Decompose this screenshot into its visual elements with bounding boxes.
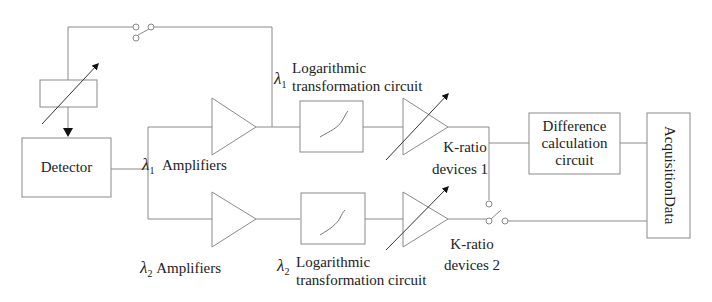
difference-line3: circuit: [555, 152, 593, 169]
lambda-subscript: 2: [284, 266, 289, 277]
data-acquisition-label: Data Acquisition: [651, 113, 687, 238]
k-ratio-1-line1: K-ratio: [433, 139, 497, 156]
lambda-subscript: 1: [281, 79, 286, 90]
lambda-subscript: 2: [147, 268, 152, 279]
data-acquisition-line1: Data: [661, 196, 678, 224]
detector-label: Detector: [22, 138, 111, 197]
amplifier-2-label: λ2 Amplifiers: [140, 259, 221, 282]
k-ratio-1-line2: devices 1: [428, 161, 492, 178]
amplifier-2-text: Amplifiers: [156, 260, 221, 276]
log-circuit-2-line1: Logarithmic: [296, 254, 370, 271]
log-circuit-1-line1: Logarithmic: [292, 60, 366, 77]
data-acquisition-line2: Acquisition: [661, 126, 678, 196]
amplifier-1-label: λ1 Amplifiers: [142, 156, 227, 179]
amplifier-1-triangle: [212, 98, 256, 155]
difference-line1: Difference: [543, 118, 607, 135]
difference-label: Difference calculation circuit: [529, 113, 620, 174]
k-ratio-2-line1: K-ratio: [440, 236, 504, 253]
feedback-switch-icon: [133, 24, 154, 41]
log-circuit-2-box: [301, 193, 365, 244]
log-circuit-2-symbol: λ2: [277, 257, 289, 280]
output-selector-switch-icon: [486, 201, 508, 224]
attenuator-box: [40, 80, 97, 107]
lambda-subscript: 1: [149, 165, 154, 176]
difference-line2: calculation: [542, 135, 608, 152]
log-circuit-1-line2: transformation circuit: [292, 78, 422, 95]
log-circuit-1-symbol: λ1: [274, 70, 286, 93]
amplifier-2-triangle: [212, 192, 256, 247]
amplifier-1-text: Amplifiers: [162, 157, 227, 173]
detector-text: Detector: [41, 159, 93, 176]
k-ratio-2-line2: devices 2: [436, 257, 508, 274]
feedback-wire: [68, 27, 135, 80]
detector-input-arrow-icon: [63, 128, 73, 137]
log-circuit-2-line2: transformation circuit: [296, 272, 426, 289]
log-circuit-1-box: [300, 101, 363, 152]
